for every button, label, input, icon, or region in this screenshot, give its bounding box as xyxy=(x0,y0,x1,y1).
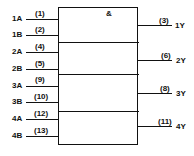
output-line xyxy=(138,126,172,127)
input-label-2a: 2A xyxy=(12,48,22,56)
output-line xyxy=(138,25,172,26)
input-pin-5: (5) xyxy=(35,60,45,68)
section-divider xyxy=(58,74,139,75)
input-line xyxy=(26,69,58,70)
section-divider xyxy=(58,111,139,112)
input-line xyxy=(26,86,58,87)
input-label-2b: 2B xyxy=(12,65,22,73)
input-pin-4: (4) xyxy=(35,43,45,51)
output-label-3y: 3Y xyxy=(176,90,186,98)
input-line xyxy=(26,136,58,137)
and-symbol: & xyxy=(106,9,112,18)
input-pin-9: (9) xyxy=(35,76,45,84)
input-pin-2: (2) xyxy=(35,26,45,34)
input-pin-10: (10) xyxy=(34,93,48,101)
input-label-1a: 1A xyxy=(12,15,22,23)
input-pin-12: (12) xyxy=(34,110,48,118)
input-pin-1: (1) xyxy=(35,10,45,18)
input-label-3b: 3B xyxy=(12,98,22,106)
output-pin-8: (8) xyxy=(160,85,170,93)
input-label-4b: 4B xyxy=(12,132,22,140)
input-pin-13: (13) xyxy=(34,127,48,135)
input-line xyxy=(26,35,58,36)
input-line xyxy=(26,119,58,120)
output-line xyxy=(138,93,172,94)
input-label-4a: 4A xyxy=(12,115,22,123)
output-label-4y: 4Y xyxy=(176,123,186,131)
output-pin-3: (3) xyxy=(159,17,169,25)
section-divider xyxy=(58,42,139,43)
input-line xyxy=(26,102,58,103)
output-label-1y: 1Y xyxy=(175,22,185,30)
output-line xyxy=(138,60,172,61)
input-line xyxy=(26,52,58,53)
input-line xyxy=(26,19,58,20)
input-label-1b: 1B xyxy=(12,31,22,39)
output-pin-6: (6) xyxy=(161,52,171,60)
output-pin-11: (11) xyxy=(158,118,172,126)
gate-block xyxy=(58,7,138,145)
input-label-3a: 3A xyxy=(12,82,22,90)
output-label-2y: 2Y xyxy=(176,57,186,65)
